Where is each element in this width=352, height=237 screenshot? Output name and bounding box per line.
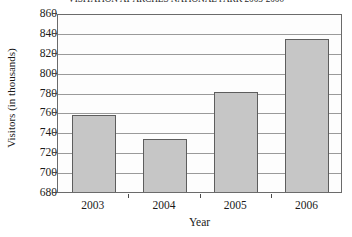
y-tick-mark <box>52 112 57 113</box>
y-tick-label: 840 <box>17 28 57 40</box>
bar <box>285 39 329 193</box>
y-tick-label: 740 <box>17 128 57 140</box>
x-tick-label: 2006 <box>276 199 336 211</box>
plot-area <box>57 14 342 193</box>
x-tick-label: 2005 <box>205 199 265 211</box>
y-axis-title: Visitors (in thousands) <box>5 13 17 183</box>
chart-title: VISITATION AT ARCHES NATIONAL PARK 2003-… <box>0 0 352 4</box>
x-axis-title: Year <box>57 216 342 228</box>
y-tick-label: 700 <box>17 167 57 179</box>
y-tick-label: 680 <box>17 187 57 199</box>
x-tick-mark <box>271 194 272 198</box>
y-tick-mark <box>52 93 57 94</box>
x-tick-label: 2004 <box>134 199 194 211</box>
y-tick-label: 820 <box>17 48 57 60</box>
bar <box>214 92 258 193</box>
bar <box>143 139 187 193</box>
gridline <box>58 34 341 35</box>
bar-chart: VISITATION AT ARCHES NATIONAL PARK 2003-… <box>0 0 352 237</box>
y-tick-mark <box>52 53 57 54</box>
y-tick-label: 720 <box>17 147 57 159</box>
y-tick-label: 760 <box>17 108 57 120</box>
x-tick-mark <box>128 194 129 198</box>
y-tick-mark <box>52 13 57 14</box>
y-tick-label: 800 <box>17 68 57 80</box>
y-tick-mark <box>52 73 57 74</box>
y-tick-label: 860 <box>17 8 57 20</box>
x-tick-mark <box>200 194 201 198</box>
y-tick-label: 780 <box>17 88 57 100</box>
y-tick-mark <box>52 33 57 34</box>
x-tick-label: 2003 <box>63 199 123 211</box>
y-tick-mark <box>52 192 57 193</box>
y-tick-mark <box>52 152 57 153</box>
y-tick-mark <box>52 172 57 173</box>
bar <box>72 115 116 193</box>
y-tick-mark <box>52 132 57 133</box>
